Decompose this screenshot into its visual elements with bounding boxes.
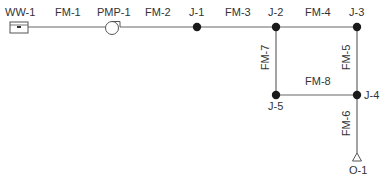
label-j-4: J-4 [364, 90, 379, 101]
label-fm-5: FM-5 [341, 45, 352, 71]
label-fm-3: FM-3 [225, 7, 251, 18]
label-fm-8: FM-8 [305, 76, 331, 87]
label-pmp-1: PMP-1 [97, 7, 131, 18]
label-fm-7: FM-7 [260, 45, 271, 71]
label-fm-4: FM-4 [305, 7, 331, 18]
junction-j-3-icon[interactable] [353, 23, 361, 31]
pump-icon[interactable] [106, 22, 121, 35]
junction-j-2-icon[interactable] [272, 23, 280, 31]
label-j-5: J-5 [268, 101, 283, 112]
label-fm-2: FM-2 [145, 7, 171, 18]
junction-j-1-icon[interactable] [193, 23, 201, 31]
network-diagram [0, 0, 387, 182]
label-o-1: O-1 [349, 165, 367, 176]
label-j-1: J-1 [189, 7, 204, 18]
wet-well-icon[interactable] [10, 22, 28, 33]
label-fm-6: FM-6 [341, 111, 352, 137]
label-fm-1: FM-1 [55, 7, 81, 18]
junction-j-5-icon[interactable] [272, 91, 280, 99]
junction-j-4-icon[interactable] [353, 91, 361, 99]
label-ww-1: WW-1 [5, 7, 35, 18]
outlet-triangle-icon[interactable] [353, 153, 362, 161]
label-j-3: J-3 [349, 7, 364, 18]
label-j-2: J-2 [268, 7, 283, 18]
